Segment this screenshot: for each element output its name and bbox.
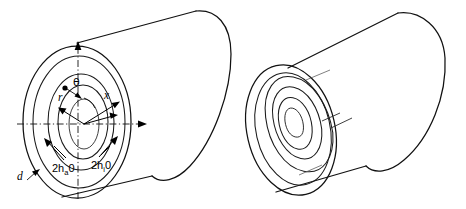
left-ring-ellipse-4 [58, 85, 108, 159]
d-label: d [17, 170, 23, 182]
right-cylinder-bottom-edge [276, 166, 366, 192]
right-spiral-core [282, 106, 306, 139]
left-origin-dot [62, 85, 67, 90]
r-leader [62, 110, 84, 124]
left-cylinder-top-edge [77, 11, 196, 43]
left-cylinder-far-cap [152, 11, 231, 180]
left-horizontal-axis-arrowhead [138, 121, 147, 128]
right-spiral-free-end-2 [322, 113, 340, 121]
inner-gap-label: 2hi0 [91, 159, 111, 174]
right-outer-ellipse [233, 56, 348, 204]
x-label: x [103, 89, 110, 101]
right-spiral-outer-turn [257, 69, 340, 179]
left-cylinder-group: θ r x 2ha0 2hi0 [17, 11, 231, 199]
right-cylinder-top-edge [288, 13, 398, 68]
left-outer-ellipse [23, 46, 131, 198]
right-cylinder-far-cap [366, 13, 445, 171]
r-label: r [58, 91, 63, 103]
right-spiral-inner-turn [274, 94, 317, 153]
technical-diagram-svg: θ r x 2ha0 2hi0 [0, 0, 466, 209]
outer-gap-label: 2ha0 [52, 162, 75, 177]
right-strip-edge-upper [306, 70, 330, 80]
right-spiral-middle-turn [267, 82, 328, 165]
right-cylinder-group [233, 13, 445, 205]
diagram-canvas: θ r x 2ha0 2hi0 [0, 0, 466, 209]
theta-label: θ [73, 76, 80, 89]
left-cylinder-bottom-edge [62, 176, 152, 197]
right-ring-ellipse-2 [244, 65, 342, 193]
outer-gap-leader [48, 142, 64, 160]
